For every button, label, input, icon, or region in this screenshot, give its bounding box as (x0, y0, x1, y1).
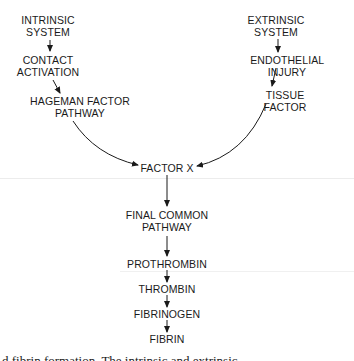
node-extrinsic-system: EXTRINSIC SYSTEM (248, 14, 305, 38)
node-fibrin: FIBRIN (149, 333, 184, 345)
node-fibrinogen: FIBRINOGEN (134, 308, 200, 320)
figure-caption-clipped: d fibrin formation. The intrinsic and ex… (2, 352, 354, 361)
arrow-contact-to-hageman (53, 80, 60, 93)
node-thrombin: THROMBIN (139, 283, 196, 295)
node-endothelial-injury: ENDOTHELIAL INJURY (250, 54, 324, 78)
node-prothrombin: PROTHROMBIN (127, 258, 207, 270)
arrow-tissue-to-factorx (197, 104, 266, 166)
node-contact-activation: CONTACT ACTIVATION (17, 54, 79, 78)
node-final-common-pathway: FINAL COMMON PATHWAY (126, 209, 208, 233)
arrow-hageman-to-factorx (73, 121, 138, 165)
node-factor-x: FACTOR X (140, 162, 193, 174)
node-intrinsic-system: INTRINSIC SYSTEM (21, 14, 74, 38)
node-hageman-factor-pathway: HAGEMAN FACTOR PATHWAY (30, 95, 130, 119)
node-tissue-factor: TISSUE FACTOR (251, 89, 320, 113)
